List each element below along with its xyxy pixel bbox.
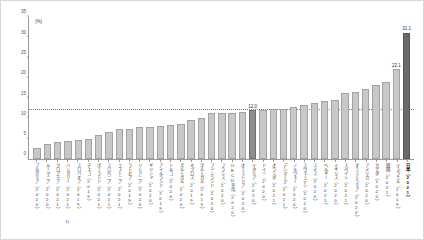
x-axis-label-column: スロベニア（2021） [103, 162, 113, 236]
x-axis-label-column: イギリス（2020） [330, 162, 340, 236]
y-axis-tick-label: 30 [21, 30, 26, 35]
x-axis-labels: ブルガリア（2020）ルーマニア（2020）クロアチア（2021）ハンガリー（2… [28, 162, 414, 236]
x-axis-label-column: スイス（2020） [309, 162, 319, 236]
x-axis-tick-label: クロアチア（2021） [54, 163, 59, 236]
x-axis-label-column: ポルトガル（2019） [196, 162, 206, 236]
bar-column [371, 17, 381, 159]
bar-column [309, 17, 319, 159]
x-axis-tick-label: リトアニア（2020） [137, 163, 142, 236]
x-axis-tick-mark [88, 160, 89, 162]
x-axis-tick-label: スペイン（2021） [343, 163, 348, 236]
bar-column [217, 17, 227, 159]
x-axis-tick-mark [77, 160, 78, 162]
x-axis-tick-label: ノルウェー（2020） [291, 163, 296, 236]
x-axis-tick-mark [273, 160, 274, 162]
x-axis-tick-mark [386, 160, 387, 162]
bar-column [145, 17, 155, 159]
bar-column [135, 17, 145, 159]
x-axis-tick-mark [191, 160, 192, 162]
x-axis-tick-mark [201, 160, 202, 162]
x-axis-label-column: ポーランド（2021） [93, 162, 103, 236]
bar-value-label: 22.1 [392, 64, 401, 69]
bar [157, 126, 164, 159]
bar [54, 142, 61, 159]
x-axis-tick-mark [263, 160, 264, 162]
bar [116, 129, 123, 159]
x-axis-tick-mark [139, 160, 140, 162]
x-axis-tick-label: アメリカ（2020） [363, 163, 368, 236]
bar [259, 110, 266, 159]
bar-column [176, 17, 186, 159]
bar [218, 113, 225, 159]
bar-column [381, 17, 391, 159]
x-axis-tick-label: イスラエル（2019） [394, 163, 399, 236]
x-axis-tick-mark [355, 160, 356, 162]
x-axis-tick-label: キプロス（2019） [188, 163, 193, 236]
x-axis-tick-mark [57, 160, 58, 162]
bar [362, 89, 369, 159]
x-axis-label-column: イタリア（2020） [247, 162, 257, 236]
x-axis-tick-label: 日本（2021） [405, 163, 410, 236]
bar [403, 33, 410, 159]
x-axis-tick-label: ラトビア（2019） [127, 163, 132, 236]
x-axis-tick-label: エストニア（2021） [116, 163, 121, 236]
bar-column [155, 17, 165, 159]
bar [372, 85, 379, 159]
bar [187, 120, 194, 159]
x-axis-label-column: オランダ（2021） [268, 162, 278, 236]
x-axis-label-column: キプロス（2019） [185, 162, 195, 236]
x-axis-label-column: アメリカ（2020） [361, 162, 371, 236]
x-axis-tick-label: 韓国（2021） [384, 163, 389, 236]
bar [331, 100, 338, 159]
bar-column [361, 17, 371, 159]
bar-column [330, 17, 340, 159]
bar [75, 140, 82, 159]
bar [64, 141, 71, 159]
x-axis-tick-mark [397, 160, 398, 162]
x-axis-tick-mark [149, 160, 150, 162]
bar [126, 129, 133, 159]
x-axis-label-column: オーストラリア（2020） [350, 162, 360, 236]
x-axis-tick-label: フィンランド（2020） [209, 163, 214, 236]
x-axis-tick-label: ブルガリア（2020） [34, 163, 39, 236]
bar-column [196, 17, 206, 159]
bar-column: 31.1 [402, 17, 412, 159]
x-axis-tick-label: オランダ（2021） [271, 163, 276, 236]
x-axis-tick-mark [160, 160, 161, 162]
footnote-marker: 1) [65, 220, 69, 224]
x-axis-tick-mark [376, 160, 377, 162]
bar [280, 109, 287, 159]
bar-column: 12.0 [248, 17, 258, 159]
x-axis-label-column: ポルトガル（2020） [175, 162, 185, 236]
x-axis-tick-mark [294, 160, 295, 162]
x-axis-label-column: フランス（2020） [216, 162, 226, 236]
bar [311, 103, 318, 159]
x-axis-tick-label: ハンガリー（2021） [65, 163, 70, 236]
x-axis-tick-mark [129, 160, 130, 162]
bar [239, 112, 246, 159]
x-axis-tick-mark [345, 160, 346, 162]
bar [208, 113, 215, 159]
x-axis-tick-mark [46, 160, 47, 162]
x-axis-tick-label: ポルトガル（2020） [178, 163, 183, 236]
x-axis-label-column: フィンランド（2020） [206, 162, 216, 236]
x-axis-tick-mark [252, 160, 253, 162]
bar-column [42, 17, 52, 159]
x-axis-tick-mark [366, 160, 367, 162]
bar-column [289, 17, 299, 159]
x-axis-label-column: ドイツ（2020） [258, 162, 268, 236]
y-axis-tick-label: 0 [23, 152, 26, 157]
x-axis-tick-label: チェコ（2019） [85, 163, 90, 236]
x-axis-tick-label: スロバキア（2019） [75, 163, 80, 236]
x-axis-label-column: アイルランド（2019） [155, 162, 165, 236]
x-axis-tick-label: デンマーク（2021） [281, 163, 286, 236]
x-axis-tick-label: スウェーデン（2020） [302, 163, 307, 236]
x-axis-label-column: 日本（2021） [402, 162, 412, 236]
bar [44, 144, 51, 159]
x-axis-tick-label: オーストリア（2020） [240, 163, 245, 236]
x-axis-tick-mark [221, 160, 222, 162]
x-axis-tick-label: イタリア（2020） [250, 163, 255, 236]
bar-column [350, 17, 360, 159]
x-axis-label-column: デンマーク（2021） [278, 162, 288, 236]
x-axis-tick-mark [335, 160, 336, 162]
